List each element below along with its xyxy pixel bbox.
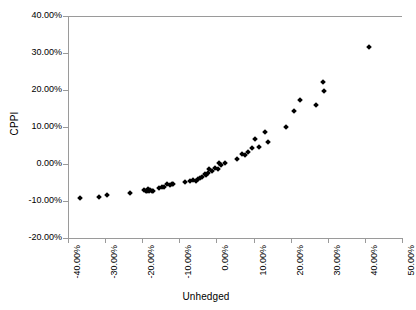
y-tick-label: -20.00%: [8, 232, 62, 242]
y-tick-label: 0.00%: [8, 158, 62, 168]
y-tick-mark: [63, 164, 68, 165]
x-axis-title: Unhedged: [0, 291, 412, 302]
y-tick-label: -10.00%: [8, 195, 62, 205]
x-tick-mark: [402, 238, 403, 243]
x-tick-mark: [365, 238, 366, 243]
y-tick-label: 40.00%: [8, 10, 62, 20]
x-axis-line: [68, 238, 402, 239]
x-tick-mark: [105, 238, 106, 243]
y-tick-mark: [63, 201, 68, 202]
y-tick-mark: [63, 53, 68, 54]
x-tick-mark: [142, 238, 143, 243]
x-tick-mark: [328, 238, 329, 243]
y-tick-mark: [63, 127, 68, 128]
x-tick-mark: [291, 238, 292, 243]
plot-area-frame: [68, 16, 402, 238]
x-tick-mark: [179, 238, 180, 243]
y-axis-title: CPPI: [9, 96, 20, 152]
y-tick-mark: [63, 16, 68, 17]
y-tick-mark: [63, 90, 68, 91]
x-tick-mark: [216, 238, 217, 243]
y-tick-label: 30.00%: [8, 47, 62, 57]
x-tick-mark: [254, 238, 255, 243]
y-tick-label: 20.00%: [8, 84, 62, 94]
x-tick-mark: [68, 238, 69, 243]
